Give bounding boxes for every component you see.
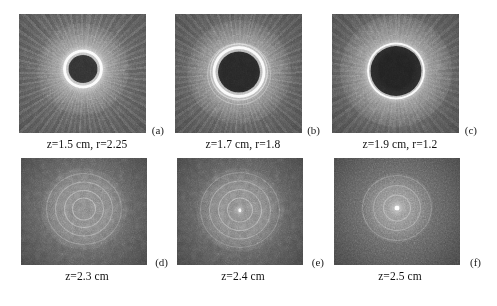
figure-cell-d: (d) z=2.3 cm bbox=[12, 158, 162, 265]
panel-a-blotches bbox=[19, 14, 146, 133]
panel-e-blotches bbox=[177, 158, 303, 265]
figure-cell-b: (b) z=1.7 cm, r=1.8 bbox=[168, 14, 318, 133]
figure-cell-e: (e) z=2.4 cm bbox=[168, 158, 318, 265]
panel-d-image bbox=[21, 158, 147, 265]
panel-caption-e: z=2.4 cm bbox=[168, 270, 318, 282]
panel-label-c: (c) bbox=[465, 125, 477, 136]
panel-f-wrap: (f) bbox=[325, 158, 475, 265]
panel-d-wrap: (d) bbox=[12, 158, 162, 265]
panel-b-wrap: (b) bbox=[168, 14, 318, 133]
panel-c-wrap: (c) bbox=[325, 14, 475, 133]
panel-caption-a: z=1.5 cm, r=2.25 bbox=[12, 138, 162, 150]
figure-cell-f: (f) z=2.5 cm bbox=[325, 158, 475, 265]
panel-caption-f: z=2.5 cm bbox=[325, 270, 475, 282]
figure-cell-a: (a) z=1.5 cm, r=2.25 bbox=[12, 14, 162, 133]
panel-e-wrap: (e) bbox=[168, 158, 318, 265]
panel-e-image bbox=[177, 158, 303, 265]
panel-label-b: (b) bbox=[307, 125, 320, 136]
panel-label-e: (e) bbox=[312, 257, 324, 268]
panel-label-a: (a) bbox=[152, 125, 164, 136]
panel-caption-b: z=1.7 cm, r=1.8 bbox=[168, 138, 318, 150]
panel-label-d: (d) bbox=[155, 257, 168, 268]
panel-d-blotches bbox=[21, 158, 147, 265]
panel-f-image bbox=[334, 158, 460, 265]
panel-f-blotches bbox=[334, 158, 460, 265]
panel-label-f: (f) bbox=[470, 257, 481, 268]
panel-a-wrap: (a) bbox=[12, 14, 162, 133]
panel-b-blotches bbox=[175, 14, 302, 133]
panel-c-blotches bbox=[332, 14, 459, 133]
figure-panel-grid: (a) z=1.5 cm, r=2.25 bbox=[0, 0, 497, 306]
panel-b-image bbox=[175, 14, 302, 133]
figure-cell-c: (c) z=1.9 cm, r=1.2 bbox=[325, 14, 475, 133]
panel-c-image bbox=[332, 14, 459, 133]
panel-caption-c: z=1.9 cm, r=1.2 bbox=[325, 138, 475, 150]
panel-caption-d: z=2.3 cm bbox=[12, 270, 162, 282]
panel-a-image bbox=[19, 14, 146, 133]
